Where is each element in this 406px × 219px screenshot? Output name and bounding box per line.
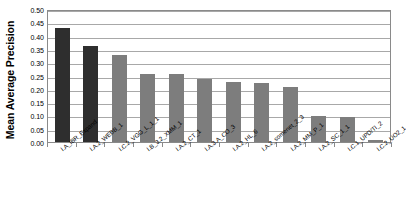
bar-slot bbox=[48, 11, 77, 142]
y-axis-tick-label: 0.15 bbox=[30, 100, 44, 107]
bar[interactable] bbox=[55, 28, 70, 142]
y-axis-tick-label: 0.10 bbox=[30, 113, 44, 120]
plot-area bbox=[47, 10, 391, 143]
x-axis-tick-labels: I.A_IBR_ExpandI.A.2_WEBB_1I.C.2_VGG_L_1_… bbox=[47, 147, 391, 219]
y-axis-title-label: Mean Average Precision bbox=[4, 21, 16, 139]
y-axis-tick-label: 0.30 bbox=[30, 60, 44, 67]
bar-slot bbox=[219, 11, 248, 142]
y-axis-tick-labels: 0.000.050.100.150.200.250.300.350.400.45… bbox=[19, 10, 46, 143]
bar-slot bbox=[333, 11, 362, 142]
bars-container bbox=[48, 11, 390, 142]
y-axis-tick-label: 0.35 bbox=[30, 46, 44, 53]
bar-slot bbox=[248, 11, 277, 142]
y-axis-tick-label: 0.05 bbox=[30, 126, 44, 133]
y-axis-tick-label: 0.20 bbox=[30, 86, 44, 93]
bar-slot bbox=[191, 11, 220, 142]
y-axis-tick-label: 0.50 bbox=[30, 7, 44, 14]
y-axis-tick-label: 0.25 bbox=[30, 73, 44, 80]
y-axis-tick-label: 0.40 bbox=[30, 33, 44, 40]
y-axis-title: Mean Average Precision bbox=[0, 0, 20, 160]
y-axis-tick-label: 0.00 bbox=[30, 140, 44, 147]
y-axis-tick-label: 0.45 bbox=[30, 20, 44, 27]
x-axis-tick-mark bbox=[391, 143, 392, 147]
